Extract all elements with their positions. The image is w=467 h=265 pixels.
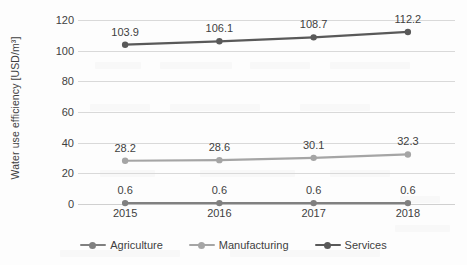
series-services: [122, 29, 411, 48]
legend-label: Services: [345, 239, 387, 251]
data-label: 112.2: [395, 13, 422, 25]
data-label: 106.1: [206, 22, 234, 34]
legend-item-services[interactable]: Services: [315, 239, 387, 251]
legend-label: Agriculture: [110, 239, 163, 251]
y-tick-label: 40: [34, 137, 74, 149]
data-label: 108.7: [300, 18, 328, 30]
y-axis-ticks: 020406080100120: [30, 20, 74, 204]
series-agriculture: [122, 200, 411, 206]
y-axis-title: Water use efficiency [USD/m³]: [0, 0, 30, 215]
series-layer: [78, 20, 455, 204]
data-point: [122, 200, 128, 206]
legend-marker-icon: [80, 240, 106, 250]
data-label: 0.6: [400, 184, 415, 196]
y-tick-label: 60: [34, 106, 74, 118]
data-label: 32.3: [397, 135, 418, 147]
y-axis-title-label: Water use efficiency [USD/m³]: [9, 36, 21, 179]
data-point: [405, 29, 411, 35]
line-chart: Water use efficiency [USD/m³] 0204060801…: [0, 0, 467, 265]
data-point: [216, 38, 222, 44]
data-point: [122, 158, 128, 164]
data-point: [310, 155, 316, 161]
series-line: [125, 154, 408, 160]
x-tick-label: 2015: [113, 207, 137, 219]
data-label: 0.6: [212, 184, 227, 196]
data-point: [216, 200, 222, 206]
y-tick-label: 20: [34, 167, 74, 179]
data-label: 28.2: [114, 142, 135, 154]
y-tick-label: 120: [34, 14, 74, 26]
data-label: 0.6: [306, 184, 321, 196]
data-point: [122, 41, 128, 47]
data-point: [310, 200, 316, 206]
legend-item-manufacturing[interactable]: Manufacturing: [189, 239, 289, 251]
y-tick-label: 100: [34, 45, 74, 57]
data-label: 30.1: [303, 139, 324, 151]
series-manufacturing: [122, 151, 411, 164]
y-tick-label: 80: [34, 75, 74, 87]
legend-item-agriculture[interactable]: Agriculture: [80, 239, 163, 251]
data-label: 0.6: [117, 184, 132, 196]
data-point: [216, 157, 222, 163]
chart-legend: AgricultureManufacturingServices: [0, 234, 467, 256]
scan-artifact: [395, 225, 450, 232]
legend-label: Manufacturing: [219, 239, 289, 251]
y-tick-label: 0: [34, 198, 74, 210]
x-tick-label: 2018: [396, 207, 420, 219]
x-tick-label: 2017: [301, 207, 325, 219]
plot-area: 0.60.60.60.628.228.630.132.3103.9106.110…: [78, 20, 455, 204]
legend-marker-icon: [189, 240, 215, 250]
data-point: [405, 151, 411, 157]
series-line: [125, 32, 408, 45]
legend-marker-icon: [315, 240, 341, 250]
data-label: 103.9: [111, 26, 139, 38]
x-axis-ticks: 2015201620172018: [78, 207, 455, 225]
x-tick-label: 2016: [207, 207, 231, 219]
data-label: 28.6: [209, 141, 230, 153]
data-point: [405, 200, 411, 206]
data-point: [310, 34, 316, 40]
